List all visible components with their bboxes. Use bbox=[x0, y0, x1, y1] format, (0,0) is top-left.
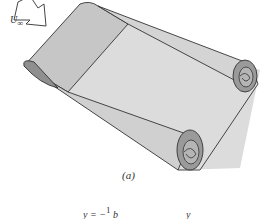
upper-roll bbox=[233, 60, 257, 92]
lower-roll bbox=[177, 130, 203, 170]
equation: y = −1 b bbox=[83, 209, 118, 219]
freestream-label: U∞ bbox=[10, 14, 23, 28]
axis-variable: y bbox=[186, 209, 190, 219]
vortex-sheet-figure bbox=[0, 0, 272, 219]
panel-label: (a) bbox=[122, 169, 135, 181]
